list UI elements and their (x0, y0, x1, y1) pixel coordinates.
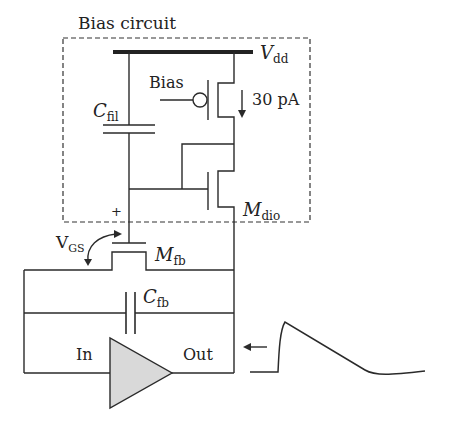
vgs-subscript: GS (68, 242, 84, 255)
mfb-subscript: fb (173, 254, 185, 268)
vgs-label: VGS (56, 234, 85, 251)
cfil-label: Cfil (93, 102, 119, 120)
circuit-diagram: Bias circuit Vdd Bias 30 pA Cfil Mdio + … (0, 0, 450, 435)
mdio-subscript: dio (261, 209, 280, 223)
vdd-symbol: V (260, 42, 273, 63)
mdio-label: Mdio (243, 201, 280, 219)
vgs-arrow-head-bottom (84, 259, 92, 266)
cfil-subscript: fil (107, 110, 119, 124)
cfil-symbol: C (93, 100, 107, 121)
pmos-channel (218, 52, 234, 144)
vdd-label: Vdd (260, 44, 288, 62)
cfb-subscript: fb (157, 296, 169, 310)
output-pulse-waveform (250, 322, 425, 374)
schematic (0, 0, 450, 435)
cfb-symbol: C (143, 286, 157, 307)
current-arrow-head (238, 110, 246, 118)
mfb-symbol: M (155, 244, 173, 265)
mdio-channel (218, 144, 234, 373)
cfb-label: Cfb (143, 288, 169, 306)
vgs-plus: + (111, 205, 122, 218)
vgs-arrow-head-top (114, 230, 122, 238)
pmos-gate-bubble (193, 93, 207, 107)
bias-input-label: Bias (149, 75, 184, 91)
output-arrow-head (243, 343, 251, 351)
amplifier-triangle (110, 338, 172, 408)
vdd-subscript: dd (273, 52, 288, 66)
mfb-label: Mfb (155, 246, 186, 264)
amp-input-label: In (76, 347, 93, 363)
mdio-symbol: M (243, 199, 261, 220)
vgs-symbol: V (56, 232, 68, 252)
bias-circuit-title: Bias circuit (78, 15, 176, 32)
amp-output-label: Out (183, 347, 213, 363)
current-label: 30 pA (252, 92, 299, 108)
mfb-channel (24, 252, 234, 270)
